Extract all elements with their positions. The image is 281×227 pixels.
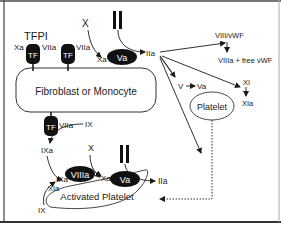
viii-vwf-label: VIII/vWF [215,31,244,40]
svg-text:Va: Va [120,175,130,185]
ix-label: IX [85,120,93,129]
xia-label: XIa [48,184,60,193]
x-label: X [88,143,94,153]
xia-label: XIa [242,99,254,108]
viia-label: VIIa [76,43,91,52]
svg-text:Activated Platelet: Activated Platelet [60,191,134,202]
ix-label: IX [38,206,46,215]
platelet-cell: Platelet [190,92,234,120]
fibroblast-label: Fibroblast or Monocyte [35,86,137,97]
fibroblast-cell: Fibroblast or Monocyte [16,68,156,112]
x-label: X [82,18,89,29]
va-complex-top: Va [107,49,137,65]
xa-label: Xa [97,55,107,64]
prothrombin-ii-bottom [120,145,129,163]
tf-receptor-2: TF [61,44,75,71]
ixa-label: IXa [41,146,54,155]
viiia-free-vwf-label: VIIIa + free vWF [218,56,273,65]
svg-text:Platelet: Platelet [197,102,228,112]
tf-label: TF [46,123,56,132]
tf-label: TF [28,51,38,60]
iia-label: IIa [158,176,168,186]
va-label: Va [197,82,207,91]
coagulation-diagram: Fibroblast or Monocyte TF TF TF TFPI Xa … [0,0,281,227]
xa-label: Xa [14,43,24,52]
xa-label: Xa [101,174,111,183]
ixa-label: IXa [56,175,69,184]
tf-receptor-1: TF [26,44,40,71]
tf-label: TF [63,51,73,60]
tfpi-label: TFPI [24,30,48,42]
viia-label: VIIa [42,43,57,52]
v-label: V [178,82,184,91]
svg-text:Va: Va [117,53,127,63]
viiia-complex: VIIIa [65,166,95,182]
xi-label: XI [243,78,250,87]
iia-label: IIa [146,49,155,58]
va-complex-bottom: Va [110,171,140,187]
svg-text:VIIIa: VIIIa [71,170,90,180]
prothrombin-ii-top [113,11,122,29]
